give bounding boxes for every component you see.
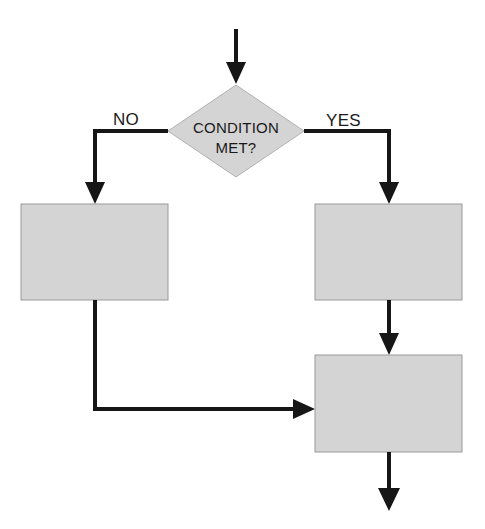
no-branch-arrow [85, 131, 168, 204]
exit-arrow [378, 452, 400, 511]
yes-to-merge-arrow-head [379, 333, 399, 355]
no-branch-process-shape [21, 204, 168, 300]
yes-branch-process-shape [315, 204, 462, 300]
decision-label-line1: CONDITION [193, 119, 279, 136]
yes-to-merge-arrow [379, 300, 399, 355]
decision-node[interactable]: CONDITION MET? [168, 85, 304, 177]
decision-label-line2: MET? [216, 139, 257, 156]
merge-process-shape [315, 355, 462, 452]
flowchart-canvas: CONDITION MET? [0, 0, 485, 529]
no-branch-process-node[interactable] [21, 204, 168, 300]
entry-arrow-head [226, 62, 246, 84]
yes-branch-arrow-head [379, 182, 399, 204]
no-to-merge-arrow-head [293, 399, 315, 419]
yes-branch-label: YES [326, 111, 361, 130]
yes-branch-process-node[interactable] [315, 204, 462, 300]
yes-branch-arrow [304, 131, 399, 204]
exit-arrow-head [378, 488, 400, 511]
flowchart-svg: CONDITION MET? [0, 0, 485, 529]
no-branch-arrow-head [85, 182, 105, 204]
no-to-merge-arrow [95, 300, 315, 419]
no-branch-label: NO [113, 110, 139, 129]
merge-process-node[interactable] [315, 355, 462, 452]
entry-arrow [226, 29, 246, 84]
